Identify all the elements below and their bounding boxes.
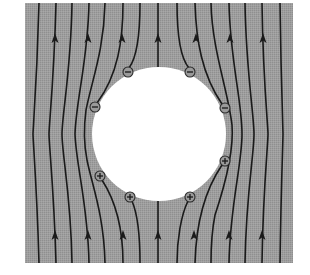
negative-charge-icon — [123, 67, 133, 77]
positive-charge-icon — [185, 192, 195, 202]
electric-field-diagram — [0, 0, 310, 275]
positive-charge-icon — [95, 171, 105, 181]
positive-charge-icon — [220, 156, 230, 166]
negative-charge-icon — [220, 103, 230, 113]
positive-charge-icon — [125, 192, 135, 202]
negative-charge-icon — [90, 102, 100, 112]
negative-charge-icon — [185, 67, 195, 77]
conductor-sphere — [92, 67, 226, 201]
